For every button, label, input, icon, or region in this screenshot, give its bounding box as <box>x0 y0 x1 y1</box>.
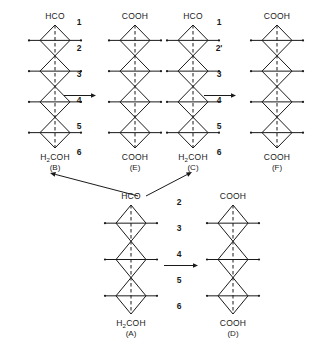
carbon-number-6: 6 <box>77 148 82 157</box>
molecule-F-top-group: COOH <box>264 12 290 21</box>
molecule-E-label: (E) <box>130 164 141 172</box>
carbon-number-4: 4 <box>177 250 182 259</box>
molecule-E-top-group: COOH <box>122 12 148 21</box>
carbon-number-3: 3 <box>177 224 182 233</box>
molecule-A-skeleton <box>98 205 164 314</box>
molecule-A-label: (A) <box>126 330 137 338</box>
molecule-D-skeleton <box>200 205 266 314</box>
molecule-C-top-group: HCO <box>183 12 203 21</box>
carbon-number-3: 3 <box>77 70 82 79</box>
arrow-a-to-d <box>164 261 198 270</box>
molecule-B-top-group: HCO <box>45 12 65 21</box>
carbon-number-6: 6 <box>177 302 182 311</box>
arrow-b-to-e <box>64 91 96 100</box>
carbon-number-2-prime: 2' <box>216 44 223 53</box>
carbon-number-6: 6 <box>217 148 222 157</box>
molecule-C-bottom-group: H2COH <box>178 153 207 162</box>
molecule-A: HCO H2COH (A) <box>98 192 164 338</box>
molecule-A-bottom-group: H2COH <box>116 319 145 328</box>
carbon-number-3: 3 <box>217 70 222 79</box>
molecule-B-label: (B) <box>50 164 61 172</box>
molecule-F: COOH COOH (F) <box>242 12 312 172</box>
molecule-A-top-group: HCO <box>121 192 141 201</box>
molecule-E-bottom-group: COOH <box>122 153 148 162</box>
carbon-number-5: 5 <box>77 122 82 131</box>
carbon-number-5: 5 <box>177 276 182 285</box>
molecule-F-bottom-group: COOH <box>264 153 290 162</box>
molecule-D-label: (D) <box>227 330 238 338</box>
carbon-number-2: 2 <box>177 198 182 207</box>
molecule-D-bottom-group: COOH <box>220 319 246 328</box>
reaction-scheme-figure: HCO H2COH (B) 123456 COOH COOH (E) HCO H… <box>0 0 320 344</box>
molecule-F-label: (F) <box>272 164 282 172</box>
carbon-number-5: 5 <box>217 122 222 131</box>
molecule-C-label: (C) <box>187 164 198 172</box>
carbon-number-1: 1 <box>77 18 82 27</box>
molecule-D-top-group: COOH <box>220 192 246 201</box>
carbon-number-2: 2 <box>77 44 82 53</box>
arrow-c-to-f <box>204 91 236 100</box>
molecule-D: COOH COOH (D) <box>200 192 266 338</box>
carbon-number-1: 1 <box>217 18 222 27</box>
molecule-F-skeleton <box>242 25 312 148</box>
